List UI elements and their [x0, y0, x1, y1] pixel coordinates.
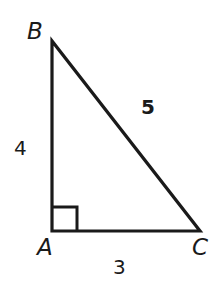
side-length-label-bc: 5 [141, 97, 155, 117]
vertex-label-c: C [192, 236, 208, 259]
triangle-outline [52, 41, 200, 231]
vertex-label-a: A [37, 236, 53, 259]
side-length-label-ac: 3 [113, 257, 126, 277]
side-length-label-ab: 4 [14, 138, 27, 158]
right-angle-marker-icon [52, 207, 77, 231]
triangle-figure: B A C 4 5 3 [0, 0, 220, 294]
triangle-drawing [0, 0, 220, 294]
vertex-label-b: B [27, 20, 43, 43]
